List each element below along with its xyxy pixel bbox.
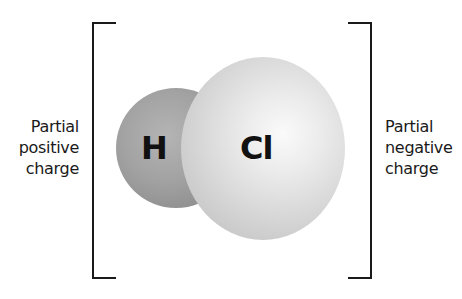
partial-negative-charge-label: Partial negative charge [385, 116, 462, 179]
hydrogen-symbol: H [141, 132, 167, 164]
partial-positive-charge-label: Partial positive charge [0, 116, 79, 179]
left-bracket [92, 22, 116, 279]
label-line: Partial [385, 116, 462, 137]
label-line: Partial [0, 116, 79, 137]
label-line: negative [385, 137, 462, 158]
label-line: charge [385, 158, 462, 179]
label-line: positive [0, 137, 79, 158]
right-bracket [348, 22, 372, 279]
label-line: charge [0, 158, 79, 179]
chlorine-symbol: Cl [240, 132, 272, 164]
